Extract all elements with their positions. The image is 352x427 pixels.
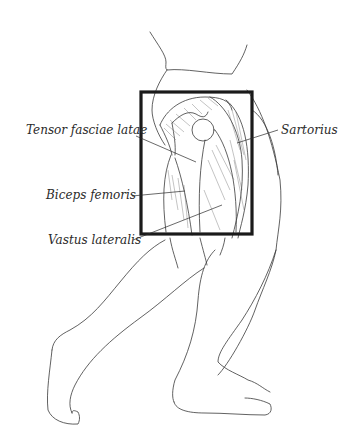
- sartorius-muscle: [210, 97, 248, 238]
- biceps-femoris: [164, 155, 192, 235]
- knee-detail: [170, 238, 225, 268]
- label-biceps-femoris: Biceps femoris: [46, 189, 136, 201]
- front-shin: [218, 250, 276, 392]
- torso-outline: [150, 32, 247, 74]
- front-thigh-under: [173, 250, 215, 402]
- gluteal-inner: [172, 112, 208, 123]
- tensor-muscle: [160, 123, 175, 155]
- back-foot: [47, 350, 79, 424]
- back-thigh-top: [52, 240, 165, 350]
- belly-line: [252, 110, 278, 175]
- back-leg-inner: [70, 268, 204, 413]
- greater-trochanter: [192, 119, 214, 141]
- anatomy-illustration: [0, 0, 352, 427]
- label-sartorius: Sartorius: [281, 124, 338, 136]
- front-foot: [174, 398, 271, 415]
- vastus-lateralis: [199, 130, 236, 232]
- leader-tensor: [136, 136, 196, 162]
- label-tensor-fasciae-latae: Tensor fasciae latae: [26, 124, 147, 136]
- label-vastus-lateralis: Vastus lateralis: [48, 234, 141, 246]
- hip-back: [152, 70, 167, 145]
